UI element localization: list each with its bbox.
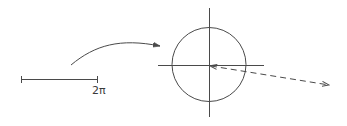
dashed-arrow-icon	[211, 66, 329, 85]
scale-bar-label: 2π	[92, 85, 106, 96]
curved-arrow-icon	[71, 43, 160, 65]
scale-bar	[22, 76, 98, 83]
diagram-canvas	[0, 0, 347, 126]
